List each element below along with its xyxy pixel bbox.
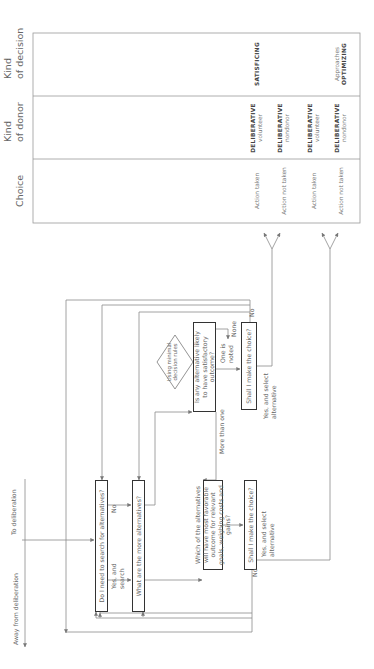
to-deliberation-label: To deliberation [10, 489, 18, 535]
donor-sub: nondonor [341, 114, 347, 142]
approaches-label: Approaches [334, 47, 340, 81]
donor-cell: DELIBERATIVEvolunteer [307, 99, 321, 157]
yes-select-upper-label: Yes, and select alternative [262, 373, 277, 419]
yes-and-search-label: Yes, and search [110, 563, 125, 589]
more-alternatives-box: What are the more alternatives? [132, 480, 145, 612]
minimal-decision-rules-label: Using minimal decision rules [166, 340, 179, 384]
donor-cell: DELIBERATIVEnondonor [277, 99, 291, 157]
satisfactory-outcome-box: Is any alternative likely to have satisf… [193, 322, 216, 412]
no-search-label: No [110, 505, 118, 513]
more-than-one-label: More than one [218, 409, 226, 454]
donor-cell: DELIBERATIVEvolunteer [250, 99, 264, 157]
yes-select-lower-label: Yes, and select alternative [260, 511, 275, 557]
satisficing-label: SATISFICING [254, 42, 260, 86]
away-from-deliberation-label: Away from deliberation [12, 573, 20, 645]
choice-cell: Action not taken [281, 163, 288, 219]
no-lower-label: No [251, 569, 259, 577]
donor-header-line2: of donor [14, 102, 25, 142]
decision-header-line2: of decision [14, 28, 25, 79]
donor-kind: DELIBERATIVE [250, 103, 256, 153]
donor-header-line1: Kind [2, 121, 13, 142]
donor-kind: DELIBERATIVE [277, 103, 283, 153]
search-alternatives-box: Do I need to search for alternatives? [95, 480, 108, 612]
donor-kind: DELIBERATIVE [334, 103, 340, 153]
none-label: None [230, 321, 238, 337]
choice-cell: Action taken [254, 163, 261, 219]
donor-sub: volunteer [314, 114, 320, 142]
choice-cell: Action taken [311, 163, 318, 219]
donor-kind: DELIBERATIVE [307, 103, 313, 153]
flowchart-diagram: To deliberation Away from deliberation D… [0, 0, 374, 669]
decision-cell-satisficing: SATISFICING [254, 35, 261, 93]
no-upper-label: No [248, 309, 256, 317]
donor-sub: volunteer [257, 114, 263, 142]
decision-header-line1: Kind [2, 58, 13, 79]
shall-make-choice-lower-box: Shall I make the choice? [244, 480, 257, 570]
decision-cell-optimizing: ApproachesOPTIMIZING [334, 35, 348, 93]
shall-make-choice-upper-box: Shall I make the choice? [241, 322, 257, 410]
choice-header: Choice [14, 175, 25, 207]
optimizing-label: OPTIMIZING [341, 43, 347, 85]
one-is-noted-label: One is noted [219, 341, 234, 363]
choice-cell: Action not taken [338, 163, 345, 219]
donor-sub: nondonor [284, 114, 290, 142]
donor-cell: DELIBERATIVEnondonor [334, 99, 348, 157]
most-favorable-box: Which of the alternatives will have most… [203, 480, 223, 570]
